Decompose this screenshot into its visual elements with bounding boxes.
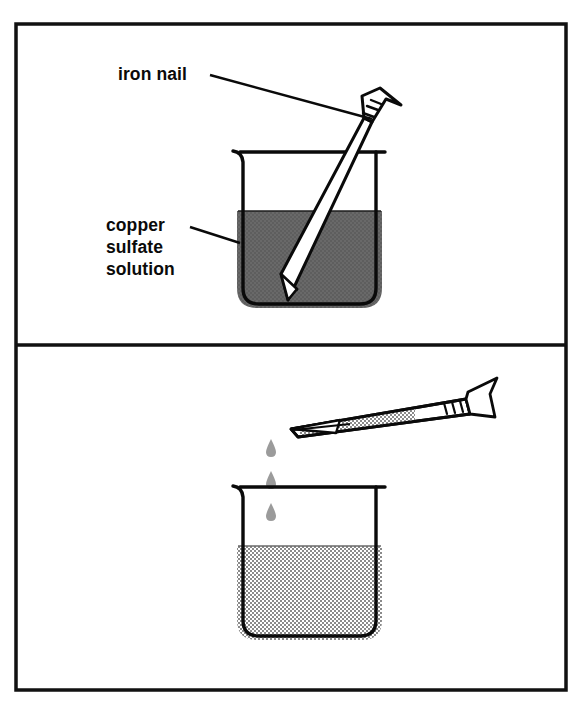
falling-droplets [266,439,276,521]
beaker-bottom [230,486,390,656]
experiment-diagram: iron nail copper sulfate solution [0,0,583,712]
beaker-bottom-liquid [230,546,390,656]
copper-sulfate-label-line-0: copper [106,215,165,235]
nail-bottom-head [466,378,497,417]
copper-sulfate-label-line-1: sulfate [106,237,163,257]
droplet-1 [266,439,276,457]
copper-sulfate-label-line-2: solution [106,259,175,279]
label-iron-nail: iron nail [118,64,372,119]
iron-nail-leader-line [210,75,372,119]
copper-sulfate-leader-line [190,227,240,243]
iron-nail-label-line-0: iron nail [118,64,187,84]
figure-root: iron nail copper sulfate solution [0,0,583,712]
droplet-3 [266,503,276,521]
panel-bottom [230,378,497,656]
label-copper-sulfate-solution: copper sulfate solution [106,215,240,279]
nail-bottom [291,378,497,440]
panel-top: iron nail copper sulfate solution [106,64,401,321]
